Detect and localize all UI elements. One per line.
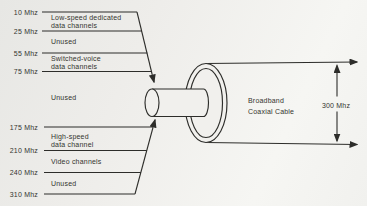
freq-label-75mhz: 75 Mhz bbox=[14, 68, 38, 75]
frequency-allocation-diagram: 10 Mhz 25 Mhz 55 Mhz 75 Mhz 175 Mhz 210 … bbox=[0, 0, 367, 206]
freq-label-210mhz: 210 Mhz bbox=[10, 147, 39, 154]
bandwidth-label: 300 Mhz bbox=[322, 102, 351, 109]
freq-label-25mhz: 25 Mhz bbox=[14, 28, 38, 35]
band-label-switched-voice-line2: data channels bbox=[51, 63, 97, 70]
cable-bottom-edge-arrow bbox=[206, 143, 357, 145]
band-label-high-speed-line2: data channel bbox=[51, 141, 94, 148]
freq-label-10mhz: 10 Mhz bbox=[14, 9, 38, 16]
band-label-low-speed-line1: Low-speed dedicated bbox=[51, 14, 121, 22]
cable-label-line2: Coaxial Cable bbox=[248, 108, 294, 115]
cable-label-line1: Broadband bbox=[248, 97, 284, 104]
band-label-unused-2: Unused bbox=[51, 94, 76, 101]
frequency-allocation-figure: 10 Mhz 25 Mhz 55 Mhz 75 Mhz 175 Mhz 210 … bbox=[0, 0, 367, 206]
band-label-low-speed-line2: data channels bbox=[51, 22, 97, 29]
cable-top-edge-arrow bbox=[206, 62, 357, 64]
band-label-unused-1: Unused bbox=[51, 38, 76, 45]
center-conductor bbox=[152, 89, 208, 117]
band-label-unused-3: Unused bbox=[51, 180, 76, 187]
freq-label-310mhz: 310 Mhz bbox=[10, 191, 39, 198]
freq-label-240mhz: 240 Mhz bbox=[10, 169, 39, 176]
freq-label-175mhz: 175 Mhz bbox=[10, 124, 39, 131]
band-label-switched-voice-line1: Switched-voice bbox=[51, 55, 101, 62]
center-conductor-end-cap bbox=[145, 89, 159, 117]
freq-label-55mhz: 55 Mhz bbox=[14, 50, 38, 57]
band-label-video-channels: Video channels bbox=[51, 158, 102, 165]
fan-arrow-bottom bbox=[135, 120, 155, 194]
